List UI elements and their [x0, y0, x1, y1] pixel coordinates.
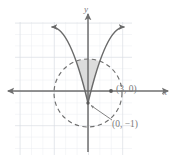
dot-3-0: [109, 89, 113, 93]
y-axis-label: y: [83, 4, 88, 14]
coordinate-plane-graph: x y (3, 0) (0, −1): [0, 0, 178, 164]
figure-canvas: x y (3, 0) (0, −1): [0, 0, 178, 164]
x-axis-label: x: [162, 87, 167, 97]
point-label-3-0: (3, 0): [116, 84, 137, 95]
point-label-0-neg1: (0, −1): [112, 119, 138, 130]
dot-0-neg1: [86, 101, 89, 104]
